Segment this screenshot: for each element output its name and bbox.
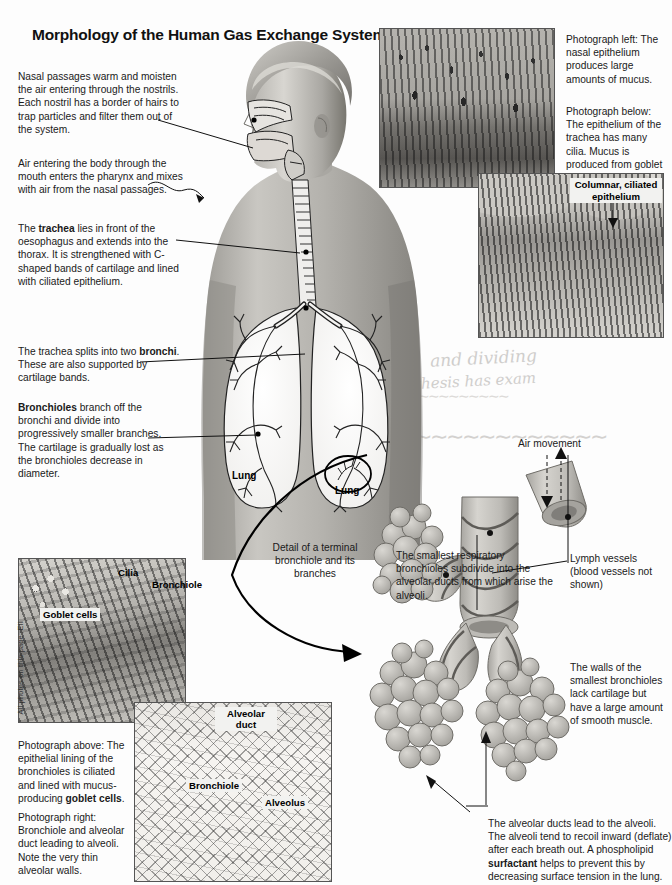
- photo-nasal-epithelium: [379, 28, 555, 188]
- label-lung-left: Lung: [232, 470, 256, 481]
- note-bronchi-term: bronchi: [139, 346, 176, 357]
- note-alveolar-ducts: The alveolar ducts lead to the alveoli. …: [488, 817, 672, 883]
- label-lung-right: Lung: [335, 485, 359, 496]
- note-alveolar-ducts-term: surfactant: [488, 858, 537, 869]
- note-bronchioles-body: branch off the bronchi and divide into p…: [18, 402, 164, 479]
- note-bronchioles: Bronchioles branch off the bronchi and d…: [18, 401, 173, 480]
- label-goblet-cells: Goblet cells: [40, 608, 100, 621]
- note-trachea-lead: The: [18, 223, 38, 234]
- label-alveolar-duct: Alveolar duct: [215, 707, 277, 731]
- label-bronchiole-alveolar-photo: Bronchiole: [186, 779, 242, 792]
- note-alveolar-ducts-part1: The alveolar ducts lead to the alveoli. …: [488, 818, 671, 855]
- note-trachea-term: trachea: [38, 223, 74, 234]
- label-air-movement: Air movement: [518, 437, 581, 450]
- label-columnar-epithelium: Columnar, ciliated epithelium: [570, 178, 662, 203]
- caption-detail-terminal-bronchiole: Detail of a terminal bronchiole and its …: [255, 541, 375, 581]
- caption-photo-above: Photograph above: The epithelial lining …: [18, 739, 130, 805]
- note-bronchi-lead: The trachea splits into two: [18, 346, 139, 357]
- note-mouth-pharynx: Air entering the body through the mouth …: [18, 157, 188, 197]
- caption-photo-right: Photograph right: Bronchiole and alveola…: [18, 811, 130, 877]
- note-trachea: The trachea lies in front of the oesopha…: [18, 222, 196, 288]
- poster-page: and dividing thesis has exam ∼∼∼∼∼∼∼∼∼∼∼…: [0, 0, 672, 885]
- caption-photo-above-term: goblet cells: [66, 793, 122, 804]
- label-cilia: Cilia: [118, 567, 138, 578]
- note-lymph-vessels: Lymph vessels (blood vessels not shown): [570, 552, 668, 592]
- note-nasal-passages: Nasal passages warm and moisten the air …: [18, 70, 188, 136]
- note-smallest-bronchioles: The smallest respiratory bronchioles sub…: [396, 549, 556, 602]
- label-bronchiole-photo: Bronchiole: [152, 579, 202, 590]
- caption-photo-above-part2: .: [122, 793, 125, 804]
- note-bronchi: The trachea splits into two bronchi. The…: [18, 345, 186, 385]
- photo-credit: All photos on this page: EII: [16, 605, 25, 715]
- terminal-bronchiole-diagram: [366, 455, 666, 815]
- label-alveolus: Alveolus: [262, 796, 308, 809]
- note-bronchiole-walls: The walls of the smallest bronchioles la…: [570, 661, 666, 727]
- note-bronchioles-term: Bronchioles: [18, 402, 77, 413]
- handwriting-bleed-1: and dividing: [430, 345, 538, 371]
- caption-photo-left: Photograph left: The nasal epithelium pr…: [566, 33, 666, 86]
